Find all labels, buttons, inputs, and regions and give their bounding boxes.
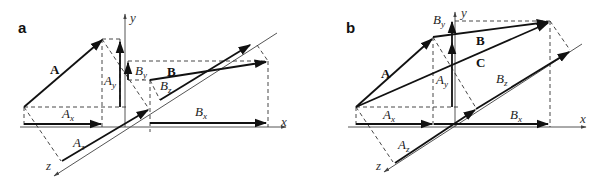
label-Bz: Bz: [496, 71, 508, 88]
label-Az: Az: [72, 135, 85, 152]
label-Bz: Bz: [160, 78, 172, 95]
label-Az: Az: [397, 137, 410, 154]
label-A: A: [50, 62, 60, 77]
label-Ay: Ay: [103, 73, 116, 90]
label-Ax: Ax: [61, 106, 74, 123]
panel-label-b: b: [346, 19, 355, 36]
construction-lines-b: [356, 21, 570, 162]
label-Bx: Bx: [195, 104, 207, 121]
y-axis-label: y: [459, 5, 467, 20]
label-By: By: [135, 63, 147, 80]
component-Az: [395, 110, 475, 163]
label-By: By: [433, 12, 445, 29]
panel-a: a x y z: [18, 10, 287, 176]
y-axis-label: y: [128, 10, 136, 25]
axes-a: x y z: [20, 10, 287, 176]
z-axis-label: z: [45, 158, 51, 173]
label-C: C: [476, 55, 485, 70]
x-axis-label: x: [579, 111, 586, 126]
label-B: B: [167, 64, 176, 79]
vector-addition-diagram: a x y z: [0, 0, 604, 182]
vector-B: [433, 22, 548, 37]
panel-b: b x y z: [346, 5, 586, 173]
vectors-b: [356, 22, 569, 163]
z-axis: [54, 33, 277, 176]
vector-A: [24, 40, 102, 107]
z-axis-label: z: [375, 158, 381, 173]
panel-label-a: a: [18, 19, 27, 36]
vectors-a: [24, 40, 266, 161]
label-A: A: [381, 66, 391, 81]
label-Ax: Ax: [382, 107, 395, 124]
vector-A: [356, 39, 432, 107]
component-Bz: [476, 52, 569, 109]
label-Ay: Ay: [435, 72, 448, 89]
label-Bx: Bx: [510, 107, 522, 124]
label-B: B: [476, 33, 485, 48]
x-axis-label: x: [280, 114, 287, 129]
